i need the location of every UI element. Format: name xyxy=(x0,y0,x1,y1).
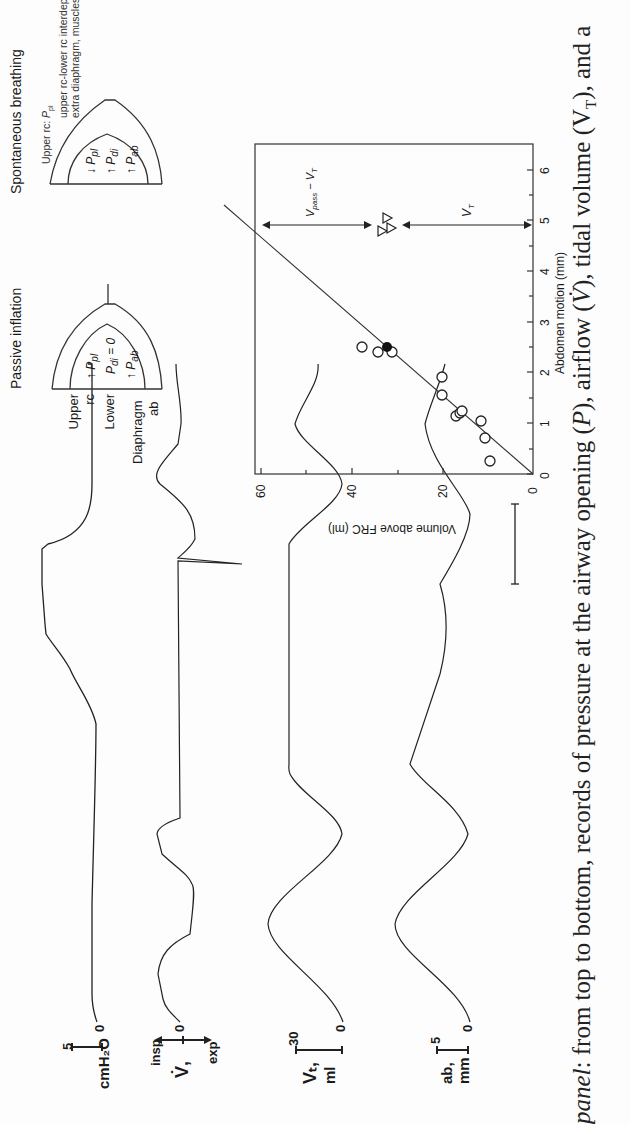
y-tick-0: 0 xyxy=(526,487,540,494)
y-tick-20: 20 xyxy=(436,485,450,498)
vt-arrow xyxy=(402,221,532,229)
x-tick-0: 0 xyxy=(538,472,552,479)
x-tick-3: 3 xyxy=(538,319,552,326)
y-tick-60: 60 xyxy=(254,485,268,498)
vpass-vt-label: Vpass − VT xyxy=(304,168,319,217)
triangle-points xyxy=(378,213,396,236)
x-tick-2: 2 xyxy=(538,369,552,376)
x-tick-6: 6 xyxy=(538,167,552,174)
filled-circle-point xyxy=(382,342,392,352)
vpass-minus-vt-arrow xyxy=(262,221,372,229)
x-tick-5: 5 xyxy=(538,217,552,224)
x-tick-1: 1 xyxy=(538,420,552,427)
rotated-figure-page: 5 0 cmH₂O insp exp V̇, 0 30 0 Vₜ, ml 5 0… xyxy=(0,0,630,1124)
figure-caption: panel: from top to bottom, records of pr… xyxy=(568,0,628,1124)
x-axis-label: Abdomen motion (mm) xyxy=(553,252,567,374)
open-circle-points xyxy=(357,342,495,466)
y-axis-label: Volume above FRC (ml) xyxy=(317,522,467,536)
vt-label: VT xyxy=(460,204,476,217)
y-tick-40: 40 xyxy=(345,485,359,498)
x-tick-4: 4 xyxy=(538,268,552,275)
